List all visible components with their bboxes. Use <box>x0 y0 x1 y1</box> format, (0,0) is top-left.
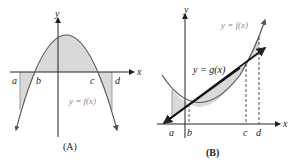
x-axis-label: x <box>282 118 288 129</box>
panel-b: x y a b c d y = g(x) y = f(x) (B) <box>157 4 288 159</box>
diagram: x y a b c d y = f(x) (A) x y <box>0 0 289 164</box>
point-d-label: d <box>115 75 121 86</box>
point-b-label: b <box>187 127 192 138</box>
point-c-label: c <box>243 127 248 138</box>
point-d-label: d <box>256 127 262 138</box>
point-a-label: a <box>169 127 174 138</box>
point-b-label: b <box>36 75 41 86</box>
point-c-label: c <box>90 75 95 86</box>
y-axis-label: y <box>183 4 189 15</box>
curve-f-label: y = f(x) <box>68 96 96 106</box>
caption-a: (A) <box>63 141 77 153</box>
caption-b: (B) <box>206 147 219 159</box>
curve-f-label: y = f(x) <box>220 20 248 30</box>
y-axis-label: y <box>54 8 60 19</box>
shaded-region-b-c <box>36 35 97 72</box>
x-axis-label: x <box>136 66 142 77</box>
line-g-label: y = g(x) <box>192 64 226 76</box>
point-a-label: a <box>12 75 17 86</box>
panel-a: x y a b c d y = f(x) (A) <box>10 8 142 153</box>
